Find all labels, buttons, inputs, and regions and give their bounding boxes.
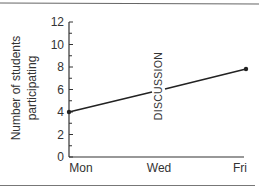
- y-tick-12: 12: [51, 15, 65, 29]
- y-axis-label-line2: participating: [25, 56, 39, 121]
- y-tick-6: 6: [57, 83, 64, 97]
- x-tick-fri: Fri: [233, 161, 247, 175]
- data-point-mon: [67, 110, 71, 114]
- y-tick-2: 2: [57, 128, 64, 142]
- y-axis-label-line1: Number of students: [9, 36, 23, 141]
- x-tick-wed: Wed: [147, 161, 171, 175]
- y-tick-10: 10: [51, 38, 65, 52]
- bottom-rule: [0, 185, 255, 186]
- y-tick-4: 4: [57, 105, 64, 119]
- discussion-annotation: DISCUSSION: [152, 52, 164, 120]
- x-tick-labels: Mon Wed Fri: [69, 161, 247, 175]
- y-tick-labels: 0 2 4 6 8 10 12: [51, 15, 65, 164]
- y-tick-0: 0: [57, 150, 64, 164]
- data-point-fri: [244, 67, 248, 71]
- y-tick-8: 8: [57, 60, 64, 74]
- line-chart: Number of students participating 0 2 4 6…: [0, 0, 259, 190]
- x-tick-mon: Mon: [69, 161, 92, 175]
